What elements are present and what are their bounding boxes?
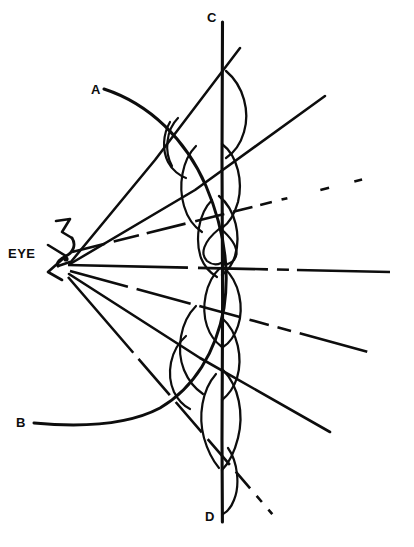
ray-down-3: [68, 277, 292, 537]
vertical-axis-cd: [222, 22, 223, 522]
ray-diagram-figure: EYE A B C D: [0, 0, 414, 547]
label-d: D: [205, 509, 215, 524]
label-a: A: [91, 82, 101, 97]
ray-down-1: [70, 271, 398, 360]
label-b: B: [16, 415, 26, 430]
label-eye: EYE: [8, 246, 36, 261]
label-c: C: [207, 10, 217, 25]
ray-horizontal-axis: [68, 265, 390, 272]
ray-diagram-canvas: EYE A B C D: [0, 0, 414, 547]
ray-up-3: [72, 170, 400, 252]
ray-down-2: [69, 274, 330, 432]
